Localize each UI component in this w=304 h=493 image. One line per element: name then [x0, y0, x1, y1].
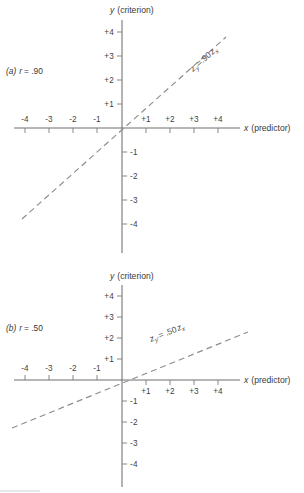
chart-panel-a: y(criterion) x(predictor) -4 -3 -2 -1 +1… [0, 0, 304, 247]
x-tick-label-a-neg3: -3 [45, 115, 53, 124]
equation-label-a: zy'=.90zx [187, 44, 221, 75]
y-tick-label-b-neg4: -4 [130, 460, 138, 469]
figure-panel-a: y(criterion) x(predictor) -4 -3 -2 -1 +1… [0, 0, 304, 247]
y-tick-label-a-neg1: -1 [130, 148, 138, 157]
y-tick-label-a-neg2: -2 [130, 172, 138, 181]
y-axis-label-b: y(criterion) [109, 271, 154, 281]
y-axis-label-a: y(criterion) [109, 5, 154, 15]
x-tick-label-b-pos3: +3 [189, 387, 199, 396]
y-tick-label-b-neg2: -2 [130, 418, 138, 427]
chart-panel-b: y(criterion) x(predictor) -4 -3 -2 -1 +1… [0, 247, 304, 493]
x-tick-label-a-pos2: +2 [165, 115, 175, 124]
x-tick-label-b-neg4: -4 [21, 364, 29, 373]
x-tick-label-a-neg4: -4 [21, 115, 29, 124]
x-tick-label-b-neg2: -2 [69, 364, 77, 373]
y-tick-label-b-neg3: -3 [130, 439, 138, 448]
panel-label-b: (b)r= .50 [6, 323, 43, 333]
x-tick-label-a-pos3: +3 [189, 115, 199, 124]
x-tick-label-b-pos4: +4 [213, 387, 223, 396]
x-tick-label-a-pos1: +1 [141, 115, 151, 124]
y-tick-label-a-pos4: +4 [104, 28, 114, 37]
y-tick-label-b-neg1: -1 [130, 397, 138, 406]
x-tick-label-b-pos2: +2 [165, 387, 175, 396]
y-tick-label-a-neg3: -3 [130, 196, 138, 205]
y-tick-label-b-pos2: +2 [104, 334, 114, 343]
y-tick-label-a-pos2: +2 [104, 76, 114, 85]
figure-panel-b: y(criterion) x(predictor) -4 -3 -2 -1 +1… [0, 247, 304, 493]
x-tick-label-b-pos1: +1 [141, 387, 151, 396]
x-axis-label-a: x(predictor) [243, 123, 291, 133]
x-tick-label-a-neg2: -2 [69, 115, 77, 124]
x-axis-label-b: x(predictor) [243, 375, 291, 385]
x-tick-label-b-neg3: -3 [45, 364, 53, 373]
equation-label-b: zy'= .50zx [147, 321, 187, 346]
x-tick-label-a-pos4: +4 [213, 115, 223, 124]
x-tick-label-a-neg1: -1 [93, 115, 101, 124]
y-tick-label-b-pos3: +3 [104, 313, 114, 322]
y-tick-label-a-pos1: +1 [104, 100, 114, 109]
panel-label-a: (a)r= .90 [6, 66, 43, 76]
y-tick-label-b-pos1: +1 [104, 355, 114, 364]
y-tick-label-a-neg4: -4 [130, 220, 138, 229]
y-tick-label-b-pos4: +4 [104, 292, 114, 301]
y-tick-label-a-pos3: +3 [104, 52, 114, 61]
x-tick-label-b-neg1: -1 [93, 364, 101, 373]
